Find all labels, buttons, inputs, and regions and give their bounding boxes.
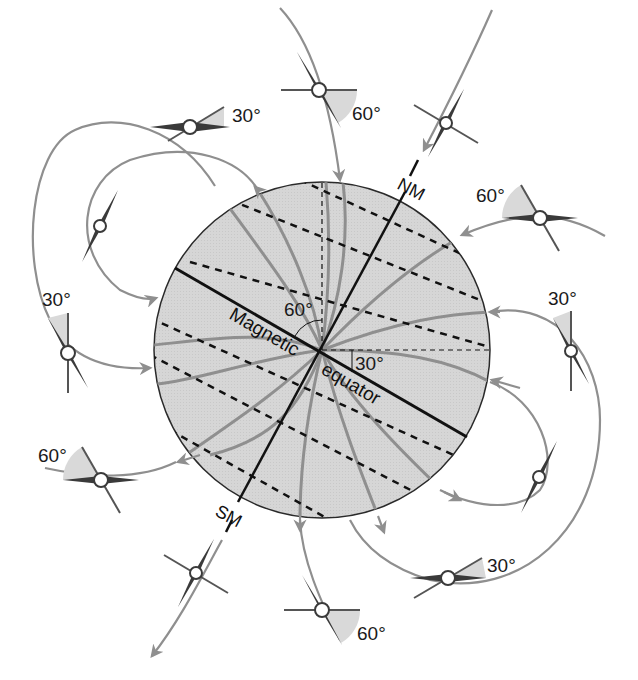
axis-extension-north [410, 160, 418, 176]
center-angle-30-label: 30° [355, 353, 384, 374]
compass-label-left-lower: 60° [38, 445, 67, 466]
compass-label-right-mid: 30° [548, 288, 577, 309]
compass-north-pole [414, 89, 478, 157]
compass-label-top: 60° [352, 103, 381, 124]
compass-right-mid [553, 311, 589, 391]
compass-bottom [284, 575, 360, 645]
south-magnetic-label: SM [212, 501, 245, 531]
compass-bottom-right [410, 558, 486, 598]
compass-label-bottom: 60° [357, 623, 386, 644]
compass-left-lower [63, 447, 139, 513]
magnetic-inclination-diagram: NM SM Magnetic equator 60° 30° [0, 0, 638, 680]
compass-label-top-left: 30° [232, 105, 261, 126]
compass-right-upper [502, 185, 578, 251]
compass-right-lower [521, 441, 557, 513]
compass-label-right-upper: 60° [476, 185, 505, 206]
compass-label-left-mid: 30° [42, 289, 71, 310]
center-angle-60-label: 60° [284, 299, 313, 320]
compass-left-mid [48, 313, 88, 393]
compass-top [281, 52, 357, 128]
compass-south-pole [164, 539, 228, 607]
compass-label-bottom-right: 30° [487, 555, 516, 576]
